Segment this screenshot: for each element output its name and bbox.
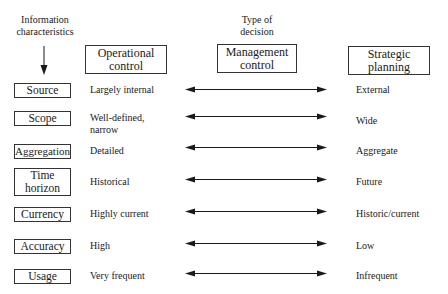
label-line: characteristics [0, 26, 90, 38]
row-label-text: horizon [25, 182, 60, 195]
strategic-value-time-horizon: Future [356, 176, 382, 188]
strategic-value-usage: Infrequent [356, 270, 398, 282]
double-headed-arrow-icon [185, 143, 327, 152]
column-management-control: Management control [217, 44, 297, 73]
column-label: Operational [98, 47, 155, 60]
row-label-source: Source [14, 83, 71, 98]
cell-text: Detailed [90, 145, 124, 157]
row-label-text: Usage [28, 270, 57, 283]
label-line: Information [0, 14, 90, 26]
cell-text: Historical [90, 176, 129, 188]
row-label-text: Aggregation [15, 145, 70, 158]
operational-value-time-horizon: Historical [90, 176, 129, 188]
operational-value-scope: Well-defined, narrow [90, 112, 144, 136]
row-label-text: Currency [21, 208, 64, 221]
cell-text: Highly current [90, 208, 149, 220]
strategic-value-currency: Historic/current [356, 208, 419, 220]
row-label-text: Source [27, 84, 59, 97]
row-label-text: Accuracy [20, 240, 64, 253]
label-line: Type of [222, 14, 292, 26]
cell-text: High [90, 240, 110, 252]
double-headed-arrow-icon [185, 269, 327, 278]
cell-text: External [356, 84, 390, 95]
column-label: Management [226, 46, 289, 59]
column-label: Strategic [368, 48, 411, 61]
cell-text: Low [356, 240, 374, 251]
operational-value-usage: Very frequent [90, 270, 145, 282]
row-label-currency: Currency [14, 207, 71, 222]
cell-text: Very frequent [90, 270, 145, 282]
cell-text: Future [356, 176, 382, 187]
row-label-text: Time [31, 169, 55, 182]
row-label-scope: Scope [14, 111, 71, 126]
label-line: decision [222, 26, 292, 38]
double-headed-arrow-icon [185, 85, 327, 94]
operational-value-currency: Highly current [90, 208, 149, 220]
row-label-aggregation: Aggregation [14, 144, 71, 159]
cell-text: Largely internal [90, 84, 154, 96]
row-label-usage: Usage [14, 269, 71, 284]
column-label: control [109, 60, 143, 73]
arrow-down-icon [39, 46, 49, 76]
strategic-value-source: External [356, 84, 390, 96]
cell-text: Well-defined, [90, 112, 144, 124]
cell-text: Wide [356, 115, 377, 126]
cell-text: Historic/current [356, 208, 419, 219]
column-label: control [240, 59, 274, 72]
operational-value-aggregation: Detailed [90, 145, 124, 157]
row-label-time-horizon: Time horizon [14, 168, 71, 196]
strategic-value-aggregation: Aggregate [356, 145, 398, 157]
type-of-decision-label: Type of decision [222, 14, 292, 38]
row-label-accuracy: Accuracy [14, 239, 71, 254]
cell-text: Aggregate [356, 145, 398, 156]
column-label: planning [368, 61, 410, 74]
double-headed-arrow-icon [185, 112, 327, 121]
row-label-text: Scope [28, 112, 56, 125]
operational-value-accuracy: High [90, 240, 110, 252]
double-headed-arrow-icon [185, 239, 327, 248]
operational-value-source: Largely internal [90, 84, 154, 96]
double-headed-arrow-icon [185, 175, 327, 184]
cell-text: Infrequent [356, 270, 398, 281]
strategic-value-scope: Wide [356, 115, 377, 127]
cell-text: narrow [90, 124, 144, 136]
column-strategic-planning: Strategic planning [348, 46, 430, 75]
information-characteristics-label: Information characteristics [0, 14, 90, 38]
strategic-value-accuracy: Low [356, 240, 374, 252]
column-operational-control: Operational control [85, 45, 167, 74]
double-headed-arrow-icon [185, 207, 327, 216]
